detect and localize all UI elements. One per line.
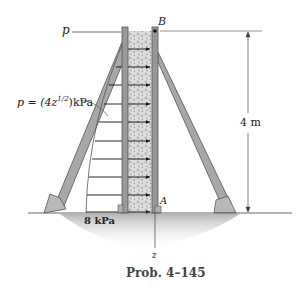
left-board bbox=[122, 27, 128, 213]
formula-unit: )kPa bbox=[69, 96, 93, 109]
diagram-svg bbox=[0, 0, 301, 295]
label-p-top: p bbox=[62, 24, 70, 36]
label-p-formula: p = (4z1/2)kPa bbox=[17, 96, 93, 108]
label-point-a: A bbox=[160, 196, 167, 206]
right-strut bbox=[158, 52, 236, 213]
figure-caption: Prob. 4–145 bbox=[126, 267, 206, 279]
retaining-wall-diagram: p p = (4z1/2)kPa B A z 4 m 8 kPa Prob. 4… bbox=[0, 0, 301, 295]
formula-main: p = (4z bbox=[17, 96, 57, 109]
left-strut bbox=[44, 42, 128, 213]
formula-exponent: 1/2 bbox=[57, 95, 68, 103]
label-point-b: B bbox=[158, 16, 166, 27]
base-block-left bbox=[118, 205, 123, 213]
point-b-marker bbox=[153, 29, 157, 33]
label-axis-z: z bbox=[152, 251, 157, 260]
base-block-right bbox=[155, 206, 161, 213]
label-base-pressure: 8 kPa bbox=[84, 216, 115, 226]
label-height-dimension: 4 m bbox=[240, 117, 261, 128]
